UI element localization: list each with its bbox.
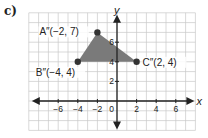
y-axis-label: y <box>113 4 121 16</box>
x-axis-left-arrow-icon <box>32 97 40 105</box>
x-tick-label: −4 <box>73 104 83 114</box>
x-tick-label: −6 <box>53 104 63 114</box>
vertex-dot <box>75 59 81 65</box>
x-tick-label: 4 <box>154 104 159 114</box>
coordinate-plane: xy −6−4−22462460 A″(−2, 7)B″(−4, 4)C″(2,… <box>0 0 208 138</box>
vertex-label: C″(2, 4) <box>143 57 177 68</box>
x-axis-right-arrow-icon <box>186 97 194 105</box>
y-tick-label: 2 <box>109 76 114 86</box>
y-axis-down-arrow-icon <box>113 121 121 129</box>
y-tick-label: 6 <box>109 37 114 47</box>
vertex-dot <box>94 29 100 35</box>
vertex-label: B″(−4, 4) <box>36 67 75 78</box>
x-axis-label: x <box>195 95 202 107</box>
origin-label: 0 <box>109 104 114 114</box>
x-tick-label: −2 <box>93 104 103 114</box>
y-axis-up-arrow-icon <box>113 15 121 23</box>
y-tick-label: 4 <box>109 57 114 67</box>
vertex-label: A″(−2, 7) <box>39 26 78 37</box>
x-tick-label: 6 <box>173 104 178 114</box>
x-tick-label: 2 <box>134 104 139 114</box>
vertex-dot <box>133 59 139 65</box>
